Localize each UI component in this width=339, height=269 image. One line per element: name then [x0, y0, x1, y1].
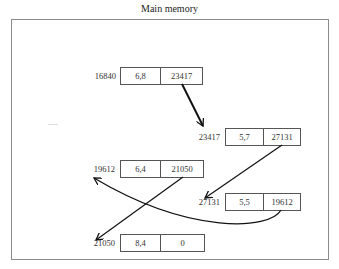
node-address-19612: 19612: [75, 164, 115, 174]
node-pointer-cell: 21050: [161, 161, 203, 177]
node-data-cell: 5,7: [226, 129, 264, 145]
memory-node-23417: 5,7 27131: [225, 128, 301, 146]
node-data-cell: 6,8: [121, 68, 161, 84]
node-pointer-cell: 27131: [264, 129, 300, 145]
memory-node-21050: 8,4 0: [120, 234, 205, 252]
node-pointer-cell: 0: [161, 235, 204, 251]
node-address-16840: 16840: [76, 71, 116, 81]
node-pointer-cell: 23417: [161, 68, 202, 84]
node-address-21050: 21050: [75, 238, 115, 248]
node-data-cell: 6,4: [121, 161, 161, 177]
memory-node-27131: 5,5 19612: [225, 193, 301, 211]
memory-node-16840: 6,8 23417: [120, 67, 203, 85]
node-address-27131: 27131: [180, 197, 220, 207]
node-data-cell: 5,5: [226, 194, 264, 210]
node-address-23417: 23417: [180, 132, 220, 142]
memory-node-19612: 6,4 21050: [120, 160, 204, 178]
node-data-cell: 8,4: [121, 235, 161, 251]
node-pointer-cell: 19612: [264, 194, 300, 210]
scan-artifact: [48, 124, 58, 125]
diagram-title: Main memory: [0, 3, 339, 14]
